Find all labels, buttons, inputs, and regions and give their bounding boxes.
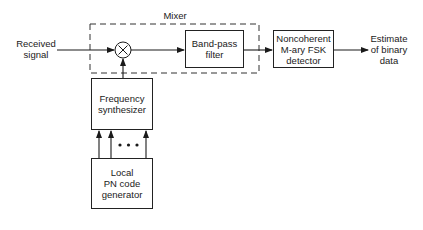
bandpass-filter-line2: filter — [192, 49, 237, 60]
pn-line2: PN code — [102, 178, 143, 189]
fsk-detector-block: Noncoherent M-ary FSK detector — [273, 30, 334, 68]
received-signal-label: Received signal — [16, 38, 56, 60]
pn-line1: Local — [102, 167, 143, 178]
synth-line1: Frequency — [98, 93, 146, 104]
bandpass-filter-block: Band-pass filter — [185, 30, 244, 68]
estimate-line3: data — [366, 55, 412, 66]
bandpass-filter-line1: Band-pass — [192, 38, 237, 49]
detector-line2: M-ary FSK — [276, 44, 330, 55]
mixer-label: Mixer — [160, 10, 190, 21]
received-signal-line2: signal — [16, 49, 56, 60]
frequency-synthesizer-block: Frequency synthesizer — [91, 78, 153, 130]
received-signal-line1: Received — [16, 38, 56, 49]
detector-line1: Noncoherent — [276, 33, 330, 44]
estimate-output-label: Estimate of binary data — [366, 33, 412, 66]
pn-code-generator-block: Local PN code generator — [91, 158, 153, 209]
detector-line3: detector — [276, 55, 330, 66]
synth-line2: synthesizer — [98, 104, 146, 115]
pn-line3: generator — [102, 189, 143, 200]
estimate-line2: of binary — [366, 44, 412, 55]
estimate-line1: Estimate — [366, 33, 412, 44]
